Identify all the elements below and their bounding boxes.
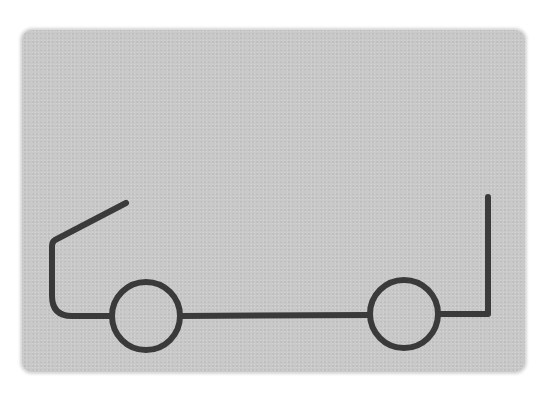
vehicle-rear-body-line — [438, 197, 488, 314]
vehicle-outline-figure — [0, 0, 548, 393]
front-wheel-icon — [112, 282, 180, 350]
vehicle-chassis-line — [180, 315, 370, 316]
rear-wheel-icon — [370, 280, 438, 348]
